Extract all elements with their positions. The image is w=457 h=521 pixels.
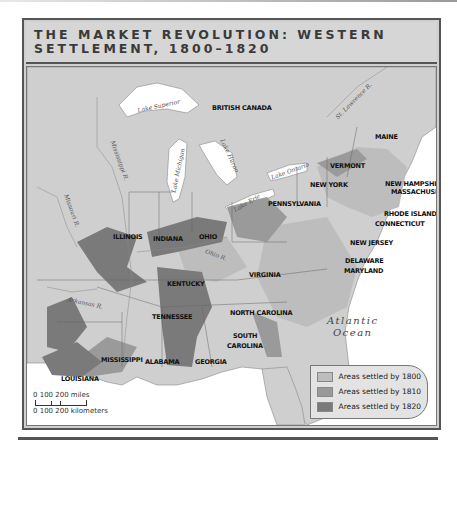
legend-swatch-1820 (317, 402, 333, 412)
legend-item-1820: Areas settled by 1820 (317, 399, 421, 414)
scale-tick (51, 401, 52, 405)
atlantic-line-2: Ocean (327, 327, 378, 339)
scale-miles-label: 0 100 200 miles (33, 391, 108, 399)
label-new-jersey: NEW JERSEY (350, 239, 393, 247)
title-line-1: THE MARKET REVOLUTION: WESTERN (34, 28, 387, 42)
label-mississippi: MISSISSIPPI (101, 356, 143, 364)
map-title: THE MARKET REVOLUTION: WESTERN SETTLEMEN… (34, 28, 387, 56)
label-illinois: ILLINOIS (113, 233, 143, 241)
map-frame: THE MARKET REVOLUTION: WESTERN SETTLEMEN… (22, 18, 441, 430)
label-delaware: DELAWARE (345, 257, 383, 265)
scale-bar: 0 100 200 miles 0 100 200 kilometers (33, 391, 108, 415)
label-maryland: MARYLAND (344, 267, 383, 275)
label-connecticut: CONNECTICUT (375, 220, 425, 228)
map-area: BRITISH CANADA MAINE VERMONT NEW HAMPSHI… (26, 66, 437, 426)
legend-label-1820: Areas settled by 1820 (339, 402, 421, 411)
title-line-2: SETTLEMENT, 1800–1820 (34, 42, 387, 56)
title-box: THE MARKET REVOLUTION: WESTERN SETTLEMEN… (26, 22, 437, 64)
legend-item-1800: Areas settled by 1800 (317, 369, 421, 384)
label-alabama: ALABAMA (145, 358, 179, 366)
label-georgia: GEORGIA (195, 358, 227, 366)
legend-item-1810: Areas settled by 1810 (317, 384, 421, 399)
label-tennessee: TENNESSEE (152, 313, 192, 321)
label-virginia: VIRGINIA (249, 271, 281, 279)
label-massachusetts: MASSACHUSETTS (391, 188, 437, 196)
label-new-york: NEW YORK (310, 181, 348, 189)
legend-label-1800: Areas settled by 1800 (339, 372, 421, 381)
legend-swatch-1800 (317, 372, 333, 382)
bottom-rule (18, 437, 438, 440)
label-vermont: VERMONT (330, 162, 365, 170)
scale-km-label: 0 100 200 kilometers (33, 407, 108, 415)
legend-swatch-1810 (317, 387, 333, 397)
label-south-carolina-line-1: SOUTH (233, 332, 257, 340)
label-louisiana: LOUISIANA (61, 375, 99, 383)
label-rhode-island: RHODE ISLAND (384, 210, 437, 218)
label-kentucky: KENTUCKY (167, 280, 205, 288)
label-pennsylvania: PENNSYLVANIA (268, 200, 321, 208)
legend-label-1810: Areas settled by 1810 (339, 387, 421, 396)
label-new-hampshire: NEW HAMPSHIRE (385, 180, 437, 188)
scale-bar-graphic (35, 400, 87, 406)
scale-tick (60, 401, 61, 405)
map-legend: Areas settled by 1800 Areas settled by 1… (310, 365, 428, 419)
label-atlantic-ocean: Atlantic Ocean (327, 315, 378, 339)
label-maine: MAINE (375, 133, 398, 141)
label-ohio: OHIO (199, 233, 217, 241)
atlantic-line-1: Atlantic (327, 315, 378, 327)
label-indiana: INDIANA (153, 235, 183, 243)
label-british-canada: BRITISH CANADA (212, 104, 272, 112)
top-rule (0, 0, 457, 2)
label-north-carolina: NORTH CAROLINA (230, 309, 292, 317)
label-south-carolina-line-2: CAROLINA (227, 342, 263, 350)
